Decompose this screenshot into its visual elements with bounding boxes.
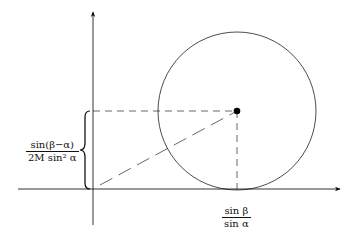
y-label-numerator: sin(β−α) <box>26 139 79 152</box>
y-label-denominator: 2M sin² α <box>26 152 79 164</box>
x-offset-label: sin β sin α <box>222 205 251 230</box>
center-point <box>234 108 241 115</box>
dashed-diagonal-line <box>100 111 237 185</box>
x-label-numerator: sin β <box>222 205 251 218</box>
x-label-denominator: sin α <box>222 218 251 230</box>
diagram-canvas <box>0 0 353 239</box>
curly-brace <box>80 111 90 189</box>
y-offset-label: sin(β−α) 2M sin² α <box>26 139 79 164</box>
